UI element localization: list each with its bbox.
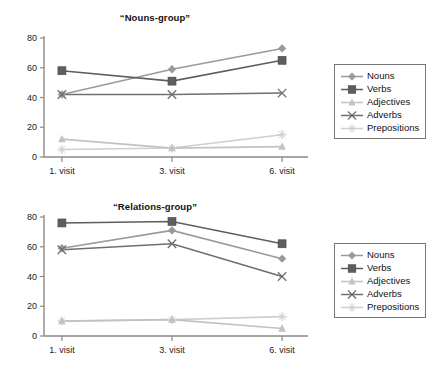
svg-text:3. visit: 3. visit	[159, 166, 185, 176]
square-icon	[339, 82, 365, 95]
chart-legend: NounsVerbsAdjectivesAdverbsPrepositions	[334, 243, 426, 318]
svg-text:0: 0	[32, 331, 37, 341]
svg-text:20: 20	[27, 122, 37, 132]
legend-item-adjectives: Adjectives	[339, 95, 419, 108]
legend-item-adverbs: Adverbs	[339, 108, 419, 121]
diamond-icon	[339, 248, 365, 261]
cross-x-icon	[339, 287, 365, 300]
plot-area-relations-group: 0204060801. visit3. visit6. visit	[0, 189, 320, 378]
legend-item-prepositions: Prepositions	[339, 121, 419, 134]
svg-text:40: 40	[27, 93, 37, 103]
diamond-icon	[339, 69, 365, 82]
legend-item-nouns: Nouns	[339, 248, 419, 261]
svg-text:6. visit: 6. visit	[269, 345, 295, 355]
chart-nouns-group: “Nouns-group” 0204060801. visit3. visit6…	[0, 0, 446, 189]
legend-item-adjectives: Adjectives	[339, 274, 419, 287]
legend-item-verbs: Verbs	[339, 82, 419, 95]
cross-x-icon	[339, 108, 365, 121]
legend-label: Nouns	[365, 248, 394, 261]
legend-label: Adjectives	[365, 274, 410, 287]
svg-text:80: 80	[27, 212, 37, 222]
chart-relations-group: “Relations-group” 0204060801. visit3. vi…	[0, 189, 446, 379]
svg-text:3. visit: 3. visit	[159, 345, 185, 355]
legend-item-verbs: Verbs	[339, 261, 419, 274]
legend-label: Prepositions	[365, 300, 419, 313]
star-plus-icon	[339, 121, 365, 134]
legend-label: Adverbs	[365, 287, 402, 300]
line-chart-svg: 0204060801. visit3. visit6. visit	[0, 0, 320, 189]
star-plus-icon	[339, 300, 365, 313]
triangle-icon	[339, 274, 365, 287]
svg-text:6. visit: 6. visit	[269, 166, 295, 176]
svg-text:40: 40	[27, 272, 37, 282]
legend-label: Verbs	[365, 82, 391, 95]
triangle-icon	[339, 95, 365, 108]
svg-text:60: 60	[27, 242, 37, 252]
svg-text:80: 80	[27, 33, 37, 43]
legend-item-adverbs: Adverbs	[339, 287, 419, 300]
svg-text:1. visit: 1. visit	[49, 345, 75, 355]
square-icon	[339, 261, 365, 274]
legend-label: Adjectives	[365, 95, 410, 108]
legend-item-nouns: Nouns	[339, 69, 419, 82]
svg-text:0: 0	[32, 152, 37, 162]
svg-text:1. visit: 1. visit	[49, 166, 75, 176]
svg-text:20: 20	[27, 301, 37, 311]
figure-container: “Nouns-group” 0204060801. visit3. visit6…	[0, 0, 446, 379]
line-chart-svg: 0204060801. visit3. visit6. visit	[0, 189, 320, 379]
legend-label: Verbs	[365, 261, 391, 274]
legend-label: Nouns	[365, 69, 394, 82]
legend-label: Prepositions	[365, 121, 419, 134]
chart-legend: NounsVerbsAdjectivesAdverbsPrepositions	[334, 64, 426, 139]
svg-text:60: 60	[27, 63, 37, 73]
legend-label: Adverbs	[365, 108, 402, 121]
plot-area-nouns-group: 0204060801. visit3. visit6. visit	[0, 0, 320, 189]
legend-item-prepositions: Prepositions	[339, 300, 419, 313]
